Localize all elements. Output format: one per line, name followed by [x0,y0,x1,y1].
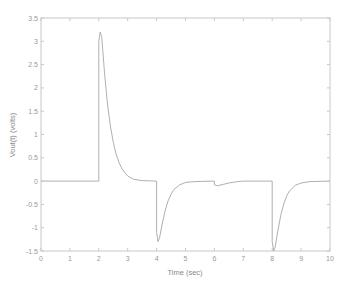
y-tick-label: 1.5 [28,108,38,115]
axes-frame [41,18,330,251]
line-chart: 012345678910 -1.5-1-0.500.511.522.533.5 … [0,0,340,285]
x-axis-label: Time (sec) [167,268,203,277]
x-tick-label: 3 [126,255,130,262]
y-tick-label: 0 [34,178,38,185]
plot-area [41,18,330,251]
y-axis-ticks: -1.5-1-0.500.511.522.533.5 [26,15,330,255]
x-tick-label: 8 [270,255,274,262]
y-tick-label: 0.5 [28,154,38,161]
y-tick-label: 2 [34,84,38,91]
x-tick-label: 6 [212,255,216,262]
y-tick-label: 3 [34,38,38,45]
x-tick-label: 4 [155,255,159,262]
x-tick-label: 1 [68,255,72,262]
x-axis-ticks: 012345678910 [39,18,334,262]
y-tick-label: -1.5 [26,248,38,255]
y-tick-label: -0.5 [26,201,38,208]
x-tick-label: 5 [184,255,188,262]
y-tick-label: -1 [32,224,38,231]
x-tick-label: 0 [39,255,43,262]
y-tick-label: 3.5 [28,15,38,22]
x-tick-label: 7 [241,255,245,262]
x-tick-label: 2 [97,255,101,262]
x-tick-label: 9 [299,255,303,262]
series-line [41,32,330,251]
y-axis-label: Vout(t) (volts) [8,112,17,157]
y-tick-label: 2.5 [28,61,38,68]
x-tick-label: 10 [326,255,334,262]
y-tick-label: 1 [34,131,38,138]
